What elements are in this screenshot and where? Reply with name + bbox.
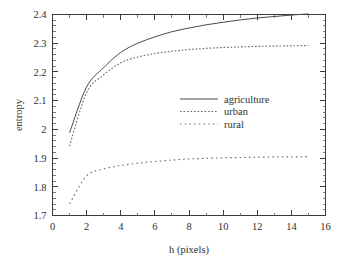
x-tick-label: 12 (252, 221, 263, 232)
entropy-vs-h-line-chart: 0246810121416 1.71.81.922.12.22.32.4 h (… (0, 0, 349, 264)
legend-item-rural: rural (180, 119, 244, 130)
series-line-rural (70, 157, 309, 204)
plot-frame (53, 15, 326, 216)
legend-item-agriculture: agriculture (180, 94, 270, 105)
y-tick-label: 2 (41, 124, 46, 135)
x-tick-label: 8 (186, 221, 191, 232)
series-line-agriculture (70, 14, 309, 133)
y-axis-major-ticks (53, 15, 326, 216)
x-tick-label: 6 (152, 221, 157, 232)
x-tick-label: 10 (218, 221, 229, 232)
data-series-layer (70, 14, 309, 204)
x-tick-label: 2 (84, 221, 89, 232)
legend-label: agriculture (224, 94, 270, 105)
chart-legend: agricultureurbanrural (180, 94, 270, 130)
y-axis-minor-ticks (53, 20, 326, 210)
y-tick-label: 2.2 (33, 67, 46, 78)
x-tick-label: 16 (320, 221, 331, 232)
y-tick-label: 2.4 (33, 9, 47, 20)
x-tick-label: 14 (286, 221, 297, 232)
x-axis-minor-ticks (70, 15, 309, 216)
chart-figure: 0246810121416 1.71.81.922.12.22.32.4 h (… (0, 0, 349, 264)
y-axis-title: entropy (13, 98, 24, 131)
x-axis-tick-labels: 0246810121416 (50, 221, 331, 232)
legend-item-urban: urban (180, 106, 249, 117)
series-line-urban (70, 46, 309, 147)
y-tick-label: 2.1 (33, 95, 46, 106)
x-tick-label: 4 (118, 221, 124, 232)
x-tick-label: 0 (50, 221, 55, 232)
x-axis-major-ticks (53, 15, 326, 216)
y-axis-tick-labels: 1.71.81.922.12.22.32.4 (33, 9, 47, 221)
y-tick-label: 1.9 (33, 153, 46, 164)
y-tick-label: 1.7 (33, 210, 46, 221)
legend-label: rural (224, 119, 244, 130)
legend-label: urban (224, 106, 249, 117)
y-tick-label: 2.3 (33, 38, 46, 49)
x-axis-title: h (pixels) (169, 244, 209, 256)
y-tick-label: 1.8 (33, 182, 46, 193)
